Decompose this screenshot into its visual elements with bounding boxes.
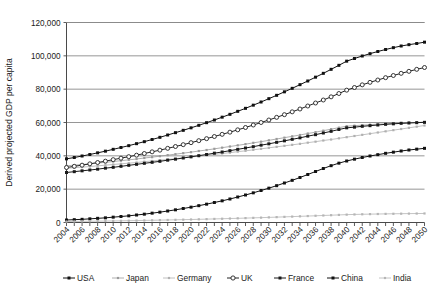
data-point	[174, 131, 177, 134]
x-tick-label: 2024	[208, 225, 228, 245]
legend-item-india[interactable]: India	[379, 273, 412, 283]
data-point	[423, 41, 426, 44]
legend-item-japan[interactable]: Japan	[112, 273, 149, 283]
data-point	[252, 142, 254, 144]
data-point	[190, 218, 192, 220]
data-point	[174, 208, 177, 211]
data-point	[361, 213, 363, 215]
data-point	[314, 133, 317, 136]
x-tick-label: 2028	[239, 225, 259, 245]
data-point	[97, 165, 99, 167]
data-point	[158, 136, 161, 139]
data-point	[119, 215, 122, 218]
data-point	[73, 156, 76, 159]
data-point	[399, 71, 403, 75]
legend-label: France	[288, 273, 314, 283]
x-tick-label: 2042	[348, 225, 368, 245]
data-point	[205, 218, 207, 220]
data-point	[213, 218, 215, 220]
data-point	[260, 189, 263, 192]
data-point	[298, 176, 301, 179]
data-point	[221, 151, 224, 154]
data-point	[322, 167, 325, 170]
x-tick-label: 2046	[379, 225, 399, 245]
legend-item-uk[interactable]: UK	[227, 273, 253, 283]
data-point	[260, 141, 262, 143]
data-point	[112, 216, 115, 219]
data-point	[267, 187, 270, 190]
data-point	[282, 113, 286, 117]
legend-item-china[interactable]: China	[327, 273, 363, 283]
data-point	[276, 138, 278, 140]
data-point	[65, 171, 68, 174]
data-point	[104, 220, 106, 222]
data-point	[298, 83, 301, 86]
data-point	[314, 141, 316, 143]
y-axis-title: Derived projected GDP per capita	[4, 58, 14, 187]
data-point	[143, 157, 145, 159]
x-tick-label: 2018	[161, 225, 181, 245]
y-tick-label: 80,000	[35, 85, 60, 94]
data-point	[97, 220, 99, 222]
data-point	[112, 220, 114, 222]
data-point	[190, 206, 193, 209]
data-point	[338, 214, 340, 216]
data-point	[291, 144, 293, 146]
data-point	[408, 127, 410, 129]
data-point	[337, 92, 341, 96]
data-point	[244, 217, 246, 219]
data-point	[103, 159, 107, 163]
legend-item-france[interactable]: France	[274, 273, 314, 283]
data-point	[119, 146, 122, 149]
data-point	[329, 95, 333, 99]
data-point	[283, 145, 285, 147]
data-point	[346, 136, 348, 138]
data-point	[384, 76, 388, 80]
data-point	[182, 157, 185, 160]
legend-label: Japan	[126, 273, 149, 283]
data-point	[96, 217, 99, 220]
data-point	[252, 217, 254, 219]
y-tick-label: 100,000	[31, 52, 61, 61]
data-point	[65, 166, 69, 170]
data-point	[392, 46, 395, 49]
data-point	[407, 69, 411, 73]
data-point	[268, 216, 270, 218]
data-point	[142, 152, 146, 156]
data-point	[81, 155, 84, 158]
data-point	[73, 170, 76, 173]
legend-item-usa[interactable]: USA	[63, 273, 95, 283]
data-point	[400, 150, 403, 153]
data-point	[353, 158, 356, 161]
data-point	[322, 72, 325, 75]
data-point	[167, 219, 169, 221]
data-point	[151, 138, 154, 141]
data-point	[244, 194, 247, 197]
data-point	[384, 130, 386, 132]
x-tick-label: 2040	[332, 225, 352, 245]
data-point	[408, 213, 410, 215]
data-point	[377, 131, 379, 133]
data-point	[150, 150, 154, 154]
data-point	[205, 149, 207, 151]
data-point	[299, 215, 301, 217]
data-point	[283, 90, 286, 93]
data-point	[252, 149, 254, 151]
y-tick-label: 20,000	[35, 185, 60, 194]
legend-item-germany[interactable]: Germany	[163, 273, 212, 283]
data-point	[353, 135, 355, 137]
data-point	[290, 110, 294, 114]
chart-container: 020,00040,00060,00080,000100,000120,0002…	[0, 0, 431, 297]
data-point	[182, 207, 185, 210]
data-point	[369, 155, 372, 158]
data-point	[229, 145, 231, 147]
data-point	[205, 153, 208, 156]
data-point	[182, 152, 184, 154]
data-point	[236, 148, 239, 151]
data-point	[384, 123, 387, 126]
data-point	[283, 182, 286, 185]
data-point	[267, 118, 271, 122]
data-point	[376, 78, 380, 82]
data-point	[73, 220, 75, 222]
data-point	[384, 213, 386, 215]
